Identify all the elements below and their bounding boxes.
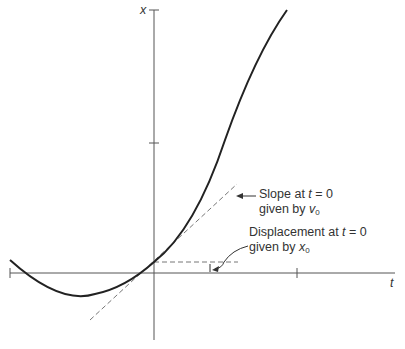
diagram-canvas <box>0 0 405 349</box>
x-axis-label: t <box>390 276 393 291</box>
displacement-pointer <box>215 246 248 269</box>
displacement-annotation-line1: Displacement at t = 0 <box>249 225 367 240</box>
y-axis-label: x <box>140 3 146 18</box>
displacement-arrowhead <box>212 266 219 272</box>
tangent-line <box>90 184 237 320</box>
slope-annotation-line2: given by v0 <box>259 202 320 220</box>
displacement-curve <box>10 10 287 296</box>
slope-annotation-line1: Slope at t = 0 <box>259 187 333 202</box>
displacement-annotation-line2: given by x0 <box>249 240 310 258</box>
slope-arrowhead <box>236 193 243 199</box>
